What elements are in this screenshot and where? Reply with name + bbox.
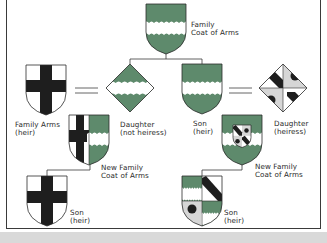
label-line2: (heir) bbox=[15, 129, 60, 137]
label-son-right: Son (heir) bbox=[224, 209, 244, 225]
new-arms-right-shield bbox=[220, 115, 265, 167]
label-line2: (not heiress) bbox=[120, 129, 167, 137]
label-line2: (heir) bbox=[224, 217, 244, 225]
label-line2: (heir) bbox=[193, 128, 213, 136]
marriage-equals-right bbox=[229, 88, 252, 93]
son-heir-shield bbox=[180, 64, 225, 116]
family-coat-of-arms-shield bbox=[144, 4, 189, 56]
label-son-left: Son (heir) bbox=[70, 209, 90, 225]
label-daughter-not-heiress: Daughter (not heiress) bbox=[120, 121, 167, 137]
label-new-arms-right: New Family Coat of Arms bbox=[255, 163, 303, 179]
label-line2: (heir) bbox=[70, 217, 90, 225]
marriage-equals-left bbox=[75, 88, 98, 93]
son-left-shield bbox=[27, 176, 67, 228]
label-line2: Coat of Arms bbox=[255, 171, 303, 179]
label-family-arms-heir: Family Arms (heir) bbox=[15, 121, 60, 137]
family-arms-heir-shield bbox=[26, 65, 66, 117]
label-line2: (heiress) bbox=[274, 128, 309, 136]
label-family-coat-of-arms: Family Coat of Arms bbox=[191, 21, 239, 37]
daughter-not-heiress-diamond bbox=[104, 64, 158, 112]
label-line2: Coat of Arms bbox=[101, 172, 149, 180]
label-daughter-heiress: Daughter (heiress) bbox=[274, 120, 309, 136]
label-new-arms-left: New Family Coat of Arms bbox=[101, 164, 149, 180]
son-right-shield bbox=[181, 176, 224, 228]
label-son-heir: Son (heir) bbox=[193, 120, 213, 136]
daughter-heiress-diamond bbox=[259, 64, 307, 112]
label-line2: Coat of Arms bbox=[191, 29, 239, 37]
